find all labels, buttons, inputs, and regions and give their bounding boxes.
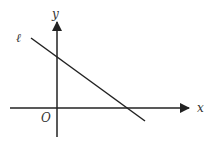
y-axis-label: y [51,7,59,21]
coordinate-diagram: ℓ y x O [0,0,213,144]
origin-label: O [41,111,51,125]
line-label: ℓ [16,31,21,45]
x-axis-label: x [197,101,204,115]
